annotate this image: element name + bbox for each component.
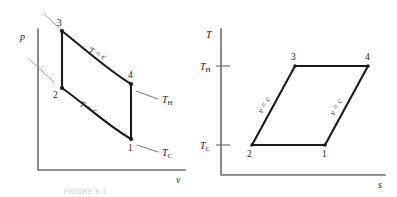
- ts-node-label-2: 2: [247, 149, 252, 159]
- ts-node-dot-3: [293, 64, 297, 68]
- pv-temp-cold-sub: C: [168, 152, 173, 160]
- ts-diagram-panel: T s TH TC 2 1: [200, 29, 385, 190]
- ts-tick-label-hot: TH: [200, 61, 211, 74]
- pv-node-dot-1: [129, 137, 133, 141]
- pv-node-label-1: 1: [128, 143, 133, 153]
- ts-node-label-3: 3: [291, 52, 296, 62]
- pv-node-dot-4: [129, 82, 133, 86]
- pv-temp-hot-sub: H: [168, 99, 173, 107]
- pv-process-2-1-isotherm: [62, 88, 131, 139]
- pv-node-dot-2: [60, 86, 64, 90]
- pv-node-label-3: 3: [57, 18, 62, 28]
- ts-tick-cold-sub: C: [206, 145, 211, 153]
- pv-node-dot-3: [60, 29, 64, 33]
- pv-leader-t-hot: [136, 91, 158, 99]
- pv-node-label-2: 2: [53, 90, 58, 100]
- ts-tick-hot-sub: H: [206, 66, 211, 74]
- ts-y-axis-label: T: [206, 29, 213, 40]
- ts-node-label-1: 1: [322, 149, 327, 159]
- thermodynamic-cycle-figure: p v 3 2 4 1 T = c: [0, 0, 397, 197]
- pv-temp-label-hot: TH: [162, 94, 173, 107]
- figure-caption: FIGURE 9-1: [64, 188, 107, 195]
- ts-axes: [221, 29, 385, 175]
- ts-tick-label-cold: TC: [200, 140, 211, 153]
- pv-node-label-4: 4: [128, 70, 133, 80]
- ts-node-dot-2: [250, 143, 254, 147]
- pv-leader-t-cold: [137, 145, 158, 152]
- ts-node-dot-1: [323, 143, 327, 147]
- stray-stroke-lower: [30, 60, 54, 82]
- pv-diagram-panel: p v 3 2 4 1 T = c: [19, 14, 185, 185]
- figure-canvas: p v 3 2 4 1 T = c: [0, 0, 397, 197]
- ts-x-axis-label: s: [378, 179, 382, 190]
- pv-y-axis-label: p: [19, 31, 25, 42]
- ts-node-dot-4: [366, 64, 370, 68]
- ts-node-label-4: 4: [365, 52, 370, 62]
- pv-temp-label-cold: TC: [162, 147, 173, 160]
- pv-x-axis-label: v: [176, 174, 181, 185]
